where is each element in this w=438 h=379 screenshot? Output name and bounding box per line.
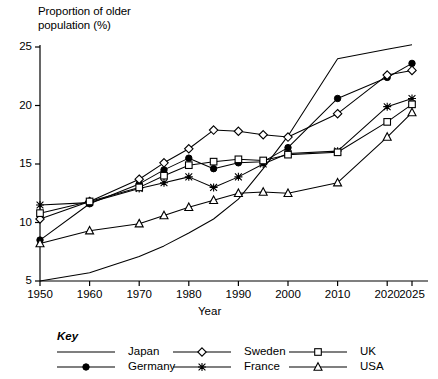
x-tick-label: 2000 [268,288,308,300]
x-tick-label: 1970 [119,288,159,300]
data-point [408,108,416,116]
data-point [37,210,44,217]
series-france [36,94,416,208]
data-point [209,126,217,134]
data-series-layer [36,45,416,281]
legend-label-japan: Japan [128,345,159,357]
legend-label-france: France [244,360,280,372]
plot-area [0,0,438,379]
data-point [235,156,242,163]
key-heading: Key [57,330,78,342]
x-tick-label: 2025 [392,288,432,300]
legend-entry-sweden[interactable] [173,348,231,356]
data-point [285,151,292,158]
series-germany [37,60,415,243]
data-point [160,159,168,167]
series-usa [36,108,416,247]
open-triangle-icon [314,363,322,371]
legend-layer [57,348,347,371]
x-axis-title: Year [198,305,221,317]
y-axis-title: Proportion of olderpopulation (%) [38,5,131,32]
legend-label-germany: Germany [128,360,175,372]
legend-label-uk: UK [360,345,376,357]
open-square-icon [315,349,322,356]
legend-entry-usa[interactable] [289,363,347,371]
y-axis-title-line1: Proportion of older [38,5,131,17]
x-tick-label: 1980 [169,288,209,300]
data-point [161,172,168,179]
data-point [185,145,193,153]
star-icon [198,363,206,371]
data-point [185,173,193,181]
y-tick-label: 25 [6,40,32,52]
data-point [383,103,391,111]
series-line [40,45,412,281]
filled-circle-icon [83,364,89,370]
y-tick-label: 5 [6,274,32,286]
data-point [260,157,267,164]
y-axis-title-line2: population (%) [38,19,111,31]
data-point [210,158,217,165]
data-point [86,198,93,205]
data-point [36,201,44,209]
x-tick-label: 1990 [218,288,258,300]
data-point [409,101,416,108]
series-line [40,63,412,240]
data-point [186,155,192,161]
chart-figure: Proportion of olderpopulation (%) Year K… [0,0,438,379]
data-point [210,183,218,191]
data-point [259,131,267,139]
data-point [160,179,168,187]
data-point [259,188,267,196]
data-point [210,165,216,171]
data-point [384,119,391,126]
data-point [136,184,143,191]
legend-label-sweden: Sweden [244,345,286,357]
legend-entry-germany[interactable] [57,364,115,370]
data-point [234,127,242,135]
legend-entry-uk[interactable] [289,349,347,356]
y-tick-label: 10 [6,216,32,228]
data-point [186,162,193,169]
x-tick-label: 1950 [20,288,60,300]
y-tick-label: 20 [6,99,32,111]
y-tick-label: 15 [6,157,32,169]
axes [35,45,428,286]
series-line [40,113,412,244]
open-diamond-icon [198,348,206,356]
series-japan [40,45,412,281]
x-tick-label: 2010 [318,288,358,300]
series-line [40,98,412,204]
data-point [334,95,340,101]
x-tick-label: 1960 [70,288,110,300]
legend-label-usa: USA [360,360,384,372]
data-point [234,173,242,181]
legend-entry-france[interactable] [173,363,231,371]
data-point [408,66,416,74]
data-point [334,149,341,156]
